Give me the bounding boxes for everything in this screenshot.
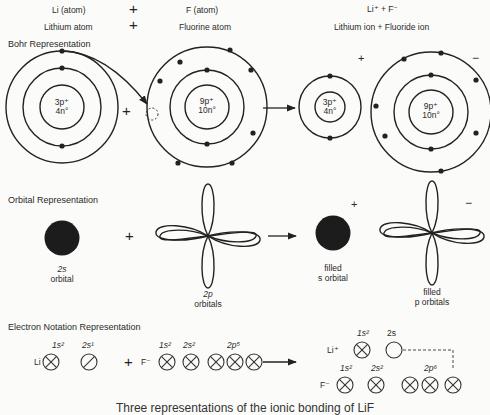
li-ion-1s-label: 1s² [357,328,369,338]
filled-s-orbital-label: filled s orbital [303,264,363,284]
plus-sign: + [125,228,134,243]
plus-sign: + [124,354,133,369]
f-nucleus-label: 9p⁺ 10n° [192,97,222,116]
li-ion-notation-label: Li⁺ [327,345,339,355]
li-ion-nucleus-label: 3p⁺ 4n° [315,98,345,117]
li-neutrons: 4n° [47,107,77,116]
electron-transfer-arrow [62,51,147,104]
li-2s-label: 2s¹ [82,340,94,350]
f-ion-notation-boxes [337,377,461,393]
2p-orbitals [156,184,260,288]
f-2p-label: 2p⁵ [227,340,240,350]
li-ion-2s-label: 2s [387,328,396,338]
filled-s-orbital [316,216,351,251]
f-notation-label: F⁻ [141,357,151,367]
filled-s-charge: + [351,198,357,210]
figure-caption: Three representations of the ionic bondi… [0,401,490,415]
f-ion-nucleus-label: 9p⁺ 10n° [416,102,446,121]
f-ion-1s-label: 1s² [340,363,352,373]
2s-orbital [45,221,80,256]
plus-sign: + [122,103,131,118]
2s-orbital-label: 2s orbital [37,265,87,285]
f-ion-notation-label: F⁻ [320,380,330,390]
2p-orbitals-label: 2p orbitals [183,290,233,310]
li-1s-label: 1s² [52,340,64,350]
li-nucleus-label: 3p⁺ 4n° [47,98,77,117]
f-notation-boxes [159,354,262,370]
f-neutrons: 10n° [192,106,222,115]
f-ion-2p-label: 2p⁶ [424,363,437,373]
li-ion-charge: + [358,52,364,64]
f-1s-label: 1s² [159,340,171,350]
f-ion-2s-label: 2s² [371,363,383,373]
f-2s-label: 2s² [183,340,195,350]
f-ion-charge: − [472,51,479,65]
li-ion-notation-boxes [354,342,453,368]
filled-p-orbitals-label: filled p orbitals [400,288,464,308]
li-notation-label: Li [34,357,41,367]
filled-p-charge: − [465,196,472,210]
li-notation-boxes [43,354,97,370]
